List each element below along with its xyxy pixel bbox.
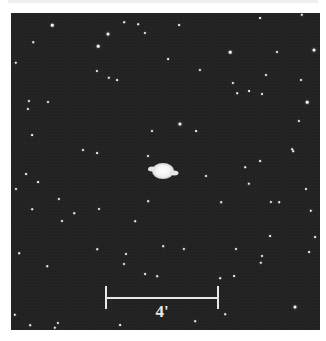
star bbox=[51, 24, 54, 27]
star bbox=[54, 327, 56, 329]
star bbox=[125, 253, 127, 255]
star bbox=[28, 100, 30, 102]
star bbox=[298, 120, 300, 122]
star bbox=[301, 14, 303, 16]
star bbox=[29, 324, 31, 326]
star bbox=[205, 175, 207, 177]
star bbox=[310, 210, 312, 212]
star bbox=[156, 275, 158, 277]
star bbox=[194, 320, 196, 322]
star bbox=[96, 152, 98, 154]
scale-bar-label: 4' bbox=[155, 302, 168, 322]
star bbox=[220, 201, 222, 203]
star bbox=[261, 93, 263, 95]
star bbox=[108, 77, 110, 79]
star bbox=[269, 235, 271, 237]
star bbox=[183, 248, 185, 250]
star bbox=[259, 17, 261, 19]
star bbox=[235, 248, 237, 250]
star bbox=[270, 201, 272, 203]
star bbox=[313, 49, 316, 52]
scale-bar-left-tick bbox=[105, 286, 107, 309]
star bbox=[14, 314, 16, 316]
star bbox=[57, 322, 59, 324]
star bbox=[178, 122, 181, 125]
star bbox=[116, 79, 118, 81]
star bbox=[32, 41, 34, 43]
star bbox=[144, 273, 146, 275]
star bbox=[178, 24, 180, 26]
star bbox=[82, 149, 84, 151]
star bbox=[300, 79, 302, 81]
star bbox=[278, 201, 280, 203]
scale-bar-line bbox=[106, 297, 218, 299]
star bbox=[294, 306, 297, 309]
star bbox=[58, 198, 60, 200]
star bbox=[261, 255, 263, 257]
star bbox=[18, 252, 20, 254]
star bbox=[97, 45, 100, 48]
star bbox=[248, 183, 250, 185]
star bbox=[195, 130, 197, 132]
star bbox=[31, 134, 33, 136]
star bbox=[73, 212, 75, 214]
star bbox=[248, 90, 250, 92]
star-field-image: 4' bbox=[11, 13, 320, 330]
top-edge-strip bbox=[8, 0, 318, 3]
star bbox=[219, 277, 221, 279]
star bbox=[276, 51, 278, 53]
star bbox=[151, 130, 153, 132]
star bbox=[314, 236, 316, 238]
star bbox=[147, 200, 149, 202]
star bbox=[98, 208, 100, 210]
star bbox=[232, 82, 234, 84]
star bbox=[96, 70, 98, 72]
star bbox=[265, 74, 267, 76]
star bbox=[144, 32, 146, 34]
star bbox=[61, 220, 63, 222]
star bbox=[137, 23, 139, 25]
star bbox=[31, 208, 33, 210]
planetary-nebula bbox=[146, 160, 180, 186]
star bbox=[15, 188, 17, 190]
star bbox=[224, 313, 226, 315]
star bbox=[25, 173, 27, 175]
star bbox=[107, 33, 110, 36]
star bbox=[244, 166, 246, 168]
star bbox=[260, 262, 262, 264]
star bbox=[96, 248, 98, 250]
star bbox=[119, 324, 121, 326]
star bbox=[123, 263, 125, 265]
star bbox=[233, 275, 235, 277]
star bbox=[134, 220, 136, 222]
star bbox=[37, 181, 39, 183]
star bbox=[199, 69, 201, 71]
star bbox=[15, 62, 17, 64]
star bbox=[308, 251, 310, 253]
star bbox=[259, 160, 261, 162]
star bbox=[167, 58, 169, 60]
star bbox=[147, 155, 149, 157]
star bbox=[27, 108, 29, 110]
star bbox=[162, 245, 164, 247]
star bbox=[229, 51, 232, 54]
scale-bar-right-tick bbox=[217, 286, 219, 309]
star bbox=[292, 150, 294, 152]
star bbox=[236, 92, 238, 94]
star bbox=[123, 21, 125, 23]
star bbox=[46, 265, 48, 267]
star bbox=[306, 101, 309, 104]
star bbox=[305, 188, 307, 190]
star bbox=[47, 101, 49, 103]
